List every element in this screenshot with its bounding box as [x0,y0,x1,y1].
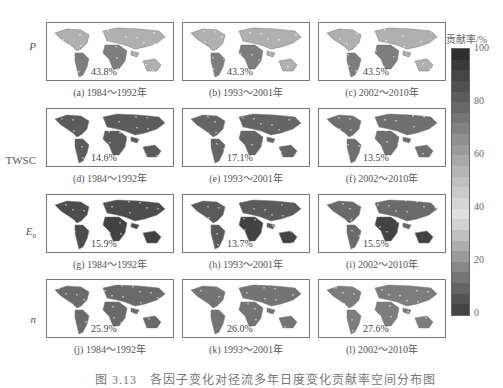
contribution-percentage: 15.5% [363,238,389,249]
contribution-percentage: 26.0% [227,323,253,334]
colorbar-segment [452,155,469,166]
map-panel: 13.7% [182,194,310,253]
panel-caption: (k) 1993～2001年 [182,341,310,356]
map-panel: 14.6% [46,108,174,167]
panel-caption: (c) 2002～2010年 [318,84,446,99]
colorbar-segment [452,294,469,305]
contribution-percentage: 14.6% [91,152,117,163]
colorbar-segment [452,187,469,198]
panel-caption: (b) 1993～2001年 [182,84,310,99]
map-panel: 15.5% [318,194,446,253]
panel-caption: (h) 1993～2001年 [182,256,310,271]
row-label-n: n [0,313,36,325]
map-panel: 43.3% [182,22,310,81]
colorbar-segment [452,262,469,273]
panel-caption: (j) 1984～1992年 [46,341,174,356]
row-label-p: P [0,40,36,52]
colorbar-segment [452,283,469,294]
row-label-e0-main: E [26,225,33,237]
contribution-percentage: 17.1% [227,152,253,163]
contribution-percentage: 43.8% [91,66,117,77]
colorbar-segment [452,134,469,145]
contribution-percentage: 13.5% [363,152,389,163]
colorbar-segment [452,145,469,156]
map-panel: 43.5% [318,22,446,81]
colorbar-segment [452,230,469,241]
colorbar-segment [452,70,469,81]
colorbar-segment [452,113,469,124]
colorbar-segment [452,304,469,315]
map-panel: 27.6% [318,279,446,338]
colorbar-segment [452,166,469,177]
colorbar-tick-100: 100 [474,42,489,53]
panel-caption: (d) 1984～1992年 [46,170,174,185]
panel-caption: (l) 2002～2010年 [318,341,446,356]
panel-caption: (a) 1984～1992年 [46,84,174,99]
map-panel: 43.8% [46,22,174,81]
colorbar-tick-80: 80 [474,95,484,106]
contribution-percentage: 43.5% [363,66,389,77]
panel-caption: (e) 1993～2001年 [182,170,310,185]
map-panel: 17.1% [182,108,310,167]
colorbar-tick-20: 20 [474,254,484,265]
colorbar-segment [452,241,469,252]
colorbar-segment [452,102,469,113]
panel-caption: (f) 2002～2010年 [318,170,446,185]
colorbar-segment [452,49,469,60]
colorbar-segment [452,251,469,262]
colorbar-segment [452,81,469,92]
panel-caption: (i) 2002～2010年 [318,256,446,271]
colorbar-segment [452,272,469,283]
colorbar-segment [452,219,469,230]
colorbar-tick-60: 60 [474,148,484,159]
map-panel: 25.9% [46,279,174,338]
map-panel: 13.5% [318,108,446,167]
contribution-percentage: 13.7% [227,238,253,249]
row-label-twsc: TWSC [0,154,36,166]
contribution-percentage: 27.6% [363,323,389,334]
row-label-e0: E0 [0,225,36,240]
colorbar-segment [452,177,469,188]
contribution-percentage: 15.9% [91,238,117,249]
colorbar-tick-0: 0 [474,307,479,318]
colorbar-segment [452,92,469,103]
panel-caption: (g) 1984～1992年 [46,256,174,271]
colorbar-segment [452,198,469,209]
row-label-e0-sub: 0 [33,232,37,240]
contribution-percentage: 43.3% [227,66,253,77]
colorbar-tick-40: 40 [474,201,484,212]
colorbar-segment [452,60,469,71]
map-panel: 15.9% [46,194,174,253]
colorbar-segment [452,123,469,134]
figure-caption: 图 3.13 各因子变化对径流多年日度变化贡献率空间分布图 [95,370,436,388]
colorbar-segment [452,209,469,220]
colorbar [451,48,470,316]
contribution-percentage: 25.9% [91,323,117,334]
map-panel: 26.0% [182,279,310,338]
